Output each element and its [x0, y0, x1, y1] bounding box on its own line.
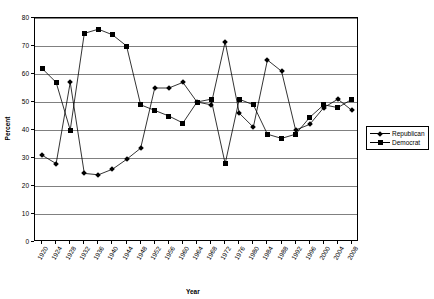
- x-tick-mark: [182, 241, 183, 244]
- data-point-democrat: [321, 102, 326, 107]
- x-tick-mark: [69, 241, 70, 244]
- x-tick-mark: [196, 241, 197, 244]
- data-point-democrat: [152, 108, 157, 113]
- data-point-democrat: [223, 161, 228, 166]
- data-point-democrat: [265, 132, 270, 137]
- x-tick-mark: [210, 241, 211, 244]
- data-point-democrat: [82, 31, 87, 36]
- legend-item-republican: Republican: [370, 129, 425, 138]
- republican-marker-icon: [370, 129, 390, 138]
- x-tick-mark: [41, 241, 42, 244]
- x-tick-mark: [140, 241, 141, 244]
- y-tick-mark: [31, 213, 34, 214]
- data-point-democrat: [307, 115, 312, 120]
- data-point-democrat: [40, 66, 45, 71]
- x-tick-mark: [295, 241, 296, 244]
- x-tick-mark: [323, 241, 324, 244]
- x-tick-mark: [238, 241, 239, 244]
- y-tick-label: 40: [22, 126, 29, 133]
- series-line-democrat: [42, 29, 352, 163]
- y-tick-mark: [31, 185, 34, 186]
- data-point-democrat: [293, 132, 298, 137]
- data-point-democrat: [209, 97, 214, 102]
- data-point-democrat: [96, 27, 101, 32]
- y-tick-label: 20: [22, 182, 29, 189]
- x-tick-mark: [111, 241, 112, 244]
- legend-label-democrat: Democrat: [392, 138, 420, 147]
- data-point-democrat: [279, 136, 284, 141]
- legend: Republican Democrat: [366, 126, 429, 150]
- election-percent-line-chart: Percent 01020304050607080 19201924192819…: [0, 0, 434, 299]
- data-point-democrat: [237, 97, 242, 102]
- y-tick-mark: [31, 129, 34, 130]
- y-tick-mark: [31, 45, 34, 46]
- data-point-democrat: [68, 128, 73, 133]
- y-axis-title: Percent: [4, 109, 11, 149]
- data-point-democrat: [251, 102, 256, 107]
- y-tick-label: 50: [22, 98, 29, 105]
- legend-item-democrat: Democrat: [370, 138, 425, 147]
- x-tick-mark: [351, 241, 352, 244]
- series-lines: [35, 18, 359, 242]
- data-point-democrat: [54, 80, 59, 85]
- x-tick-mark: [126, 241, 127, 244]
- data-point-democrat: [349, 97, 354, 102]
- x-tick-mark: [281, 241, 282, 244]
- data-point-democrat: [180, 121, 185, 126]
- y-tick-mark: [31, 17, 34, 18]
- legend-label-republican: Republican: [392, 129, 425, 138]
- y-tick-mark: [31, 157, 34, 158]
- x-tick-mark: [337, 241, 338, 244]
- x-tick-mark: [224, 241, 225, 244]
- data-point-democrat: [166, 114, 171, 119]
- data-point-democrat: [138, 102, 143, 107]
- x-axis-title: Year: [186, 288, 200, 295]
- data-point-democrat: [335, 105, 340, 110]
- y-tick-label: 30: [22, 154, 29, 161]
- y-tick-label: 70: [22, 42, 29, 49]
- x-tick-mark: [252, 241, 253, 244]
- y-tick-mark: [31, 241, 34, 242]
- y-tick-mark: [31, 101, 34, 102]
- x-tick-mark: [154, 241, 155, 244]
- data-point-democrat: [110, 32, 115, 37]
- x-tick-mark: [266, 241, 267, 244]
- y-tick-label: 60: [22, 70, 29, 77]
- x-tick-mark: [168, 241, 169, 244]
- data-point-democrat: [124, 44, 129, 49]
- y-tick-mark: [31, 73, 34, 74]
- democrat-marker-icon: [370, 138, 390, 147]
- series-line-republican: [42, 42, 352, 175]
- x-tick-mark: [83, 241, 84, 244]
- x-tick-mark: [309, 241, 310, 244]
- x-tick-mark: [97, 241, 98, 244]
- data-point-democrat: [195, 100, 200, 105]
- x-tick-mark: [55, 241, 56, 244]
- y-tick-label: 10: [22, 210, 29, 217]
- plot-area: [34, 17, 358, 241]
- y-tick-label: 80: [22, 14, 29, 21]
- y-tick-label: 0: [25, 238, 29, 245]
